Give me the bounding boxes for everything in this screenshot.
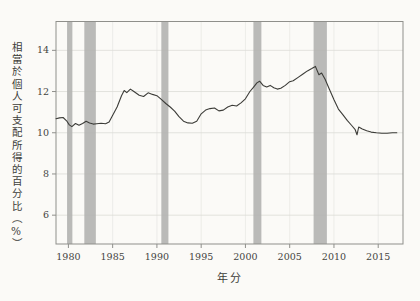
x-tick-label: 2005 bbox=[278, 251, 302, 262]
x-tick-label: 1985 bbox=[101, 251, 125, 262]
recession-band bbox=[161, 22, 168, 245]
x-tick-label: 1995 bbox=[189, 251, 213, 262]
y-tick-label: 12 bbox=[37, 86, 49, 97]
data-line bbox=[56, 66, 397, 134]
recession-band bbox=[67, 22, 72, 245]
x-tick-label: 1980 bbox=[56, 251, 80, 262]
x-tick-label: 2010 bbox=[322, 251, 346, 262]
y-tick-label: 10 bbox=[37, 127, 49, 138]
debt-service-ratio-figure: 相當於個人可支配所得的百分比（%） 1980198519901995200020… bbox=[0, 0, 420, 301]
y-tick-label: 8 bbox=[43, 168, 49, 179]
x-tick-label: 2015 bbox=[366, 251, 390, 262]
y-tick-label: 14 bbox=[37, 44, 49, 55]
x-axis-label: 年分 bbox=[56, 269, 403, 285]
x-tick-label: 2000 bbox=[233, 251, 257, 262]
y-tick-label: 6 bbox=[43, 209, 49, 220]
recession-band bbox=[314, 22, 327, 245]
plot-area: 1980198519901995200020052010201514121086 bbox=[0, 0, 420, 301]
recession-band bbox=[84, 22, 96, 245]
recession-band bbox=[253, 22, 261, 245]
x-tick-label: 1990 bbox=[145, 251, 169, 262]
